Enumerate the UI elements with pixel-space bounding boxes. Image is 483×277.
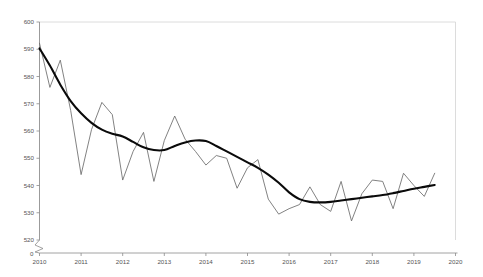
x-tick-label: 2018 (365, 258, 379, 265)
axis-break-zigzag-icon (35, 240, 43, 253)
y-tick-label: 560 (24, 127, 35, 134)
x-tick-label: 2014 (199, 258, 213, 265)
y-tick-label: 600 (24, 18, 35, 25)
y-tick-label: 540 (24, 182, 35, 189)
axis-lines (35, 22, 458, 253)
series-line-trend (40, 48, 435, 202)
x-tick-label: 2017 (324, 258, 338, 265)
origin-zero-label: 0 (30, 250, 34, 257)
y-tick-label: 590 (24, 45, 35, 52)
y-tick-label: 580 (24, 73, 35, 80)
y-axis-ticks: 520530540550560570580590600 (24, 18, 40, 243)
chart-container: 520530540550560570580590600 201020112012… (0, 0, 483, 277)
x-tick-label: 2010 (33, 258, 47, 265)
y-tick-label: 570 (24, 100, 35, 107)
series-line-observed (40, 43, 435, 221)
y-tick-label: 520 (24, 236, 35, 243)
y-tick-label: 530 (24, 209, 35, 216)
x-tick-label: 2011 (74, 258, 88, 265)
x-axis-ticks: 2010201120122013201420152016201720182019… (33, 253, 463, 265)
x-tick-label: 2016 (282, 258, 296, 265)
x-tick-label: 2019 (407, 258, 421, 265)
x-tick-label: 2013 (157, 258, 171, 265)
x-tick-label: 2020 (449, 258, 463, 265)
line-chart: 520530540550560570580590600 201020112012… (0, 0, 483, 277)
x-tick-label: 2015 (241, 258, 255, 265)
y-tick-label: 550 (24, 154, 35, 161)
data-series-group (40, 43, 435, 221)
x-tick-label: 2012 (116, 258, 130, 265)
